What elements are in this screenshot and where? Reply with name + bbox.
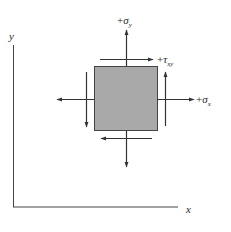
stress-element-square — [95, 67, 158, 131]
x-axis-label: x — [185, 203, 191, 215]
tau-xy-label: +τxy — [157, 53, 174, 68]
sigma-x-label: +σx — [196, 93, 212, 108]
stress-element-diagram: y x +σy +τxy +σx — [0, 0, 231, 232]
diagram-svg: y x +σy +τxy +σx — [0, 0, 231, 232]
y-axis-label: y — [8, 30, 14, 42]
sigma-y-label: +σy — [117, 14, 133, 29]
